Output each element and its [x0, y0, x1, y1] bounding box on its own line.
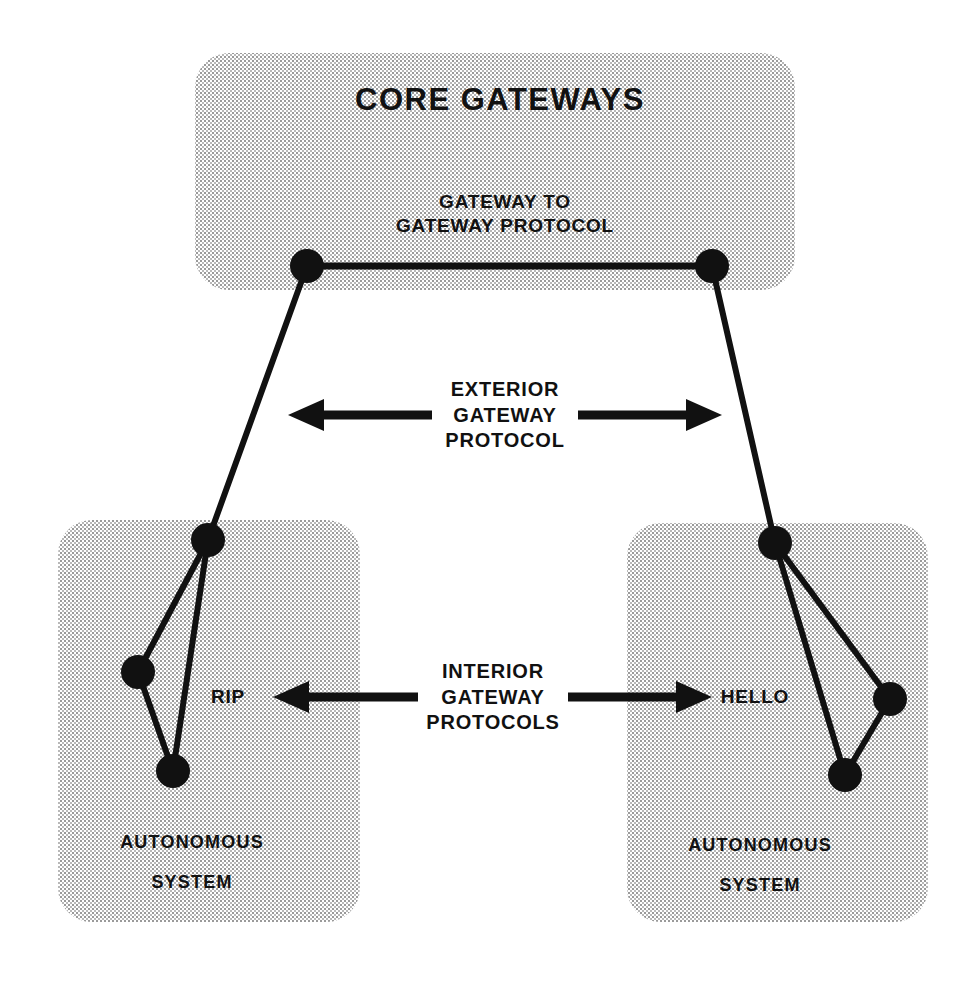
exterior-gateway-protocol-arrow-right-shaft — [578, 411, 686, 420]
interior-gateway-protocols-arrow-left-shaft — [309, 693, 418, 702]
node-as-right-gateway — [758, 526, 792, 560]
network-architecture-diagram: CORE GATEWAYS GATEWAY TO GATEWAY PROTOCO… — [0, 0, 974, 995]
node-as-left-south — [156, 754, 190, 788]
node-as-left-gateway — [191, 523, 225, 557]
group-box-autonomous-system-left — [58, 520, 360, 922]
exterior-gateway-protocol-arrow-left-shaft — [324, 411, 432, 420]
node-as-left-west — [121, 655, 155, 689]
system-boundary-boxes — [58, 53, 928, 922]
node-as-right-south — [828, 758, 862, 792]
exterior-gateway-protocol-arrow-right-head — [686, 399, 722, 431]
link-egp-left-link — [208, 266, 307, 540]
exterior-gateway-protocol-arrow-left-head — [288, 399, 324, 431]
diagram-canvas — [0, 0, 974, 995]
node-core-gw-left — [290, 249, 324, 283]
link-egp-right-link — [712, 266, 775, 543]
node-core-gw-right — [695, 249, 729, 283]
interior-gateway-protocols-arrow-right-shaft — [568, 693, 676, 702]
node-as-right-east — [873, 682, 907, 716]
group-box-autonomous-system-right — [627, 523, 928, 922]
